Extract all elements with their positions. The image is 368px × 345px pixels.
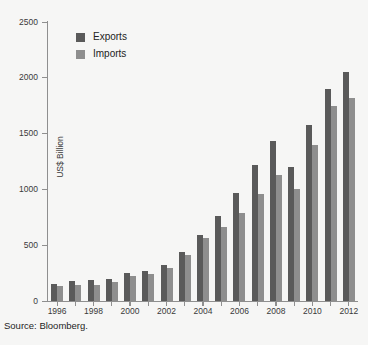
y-axis-tick (42, 245, 47, 246)
x-axis-tick (111, 301, 112, 306)
y-axis-tick-label: 0 (0, 297, 38, 306)
x-axis-tick (330, 301, 331, 306)
x-axis-tick (129, 301, 130, 306)
x-axis-tick-label: 2000 (110, 307, 150, 316)
x-axis-tick (148, 301, 149, 306)
y-axis-tick (42, 301, 47, 302)
x-axis-tick (239, 301, 240, 306)
bar-imports-2005 (221, 227, 227, 301)
x-axis-tick (57, 301, 58, 306)
y-axis-tick-label: 1500 (0, 129, 38, 138)
legend-label-imports: Imports (93, 49, 126, 59)
bar-imports-2002 (167, 268, 173, 301)
x-axis-tick-label: 1998 (74, 307, 114, 316)
bar-imports-2001 (148, 274, 154, 301)
y-axis-tick-label: 2500 (0, 18, 38, 27)
bar-imports-2011 (331, 106, 337, 301)
x-axis-tick-label: 2002 (147, 307, 187, 316)
y-axis-tick-label: 500 (0, 241, 38, 250)
x-axis-tick (257, 301, 258, 306)
y-axis-tick-label: 2000 (0, 73, 38, 82)
x-axis-tick-label: 2004 (183, 307, 223, 316)
bar-imports-1999 (112, 282, 118, 301)
x-axis-tick-label: 2006 (219, 307, 259, 316)
x-axis-tick-label: 2010 (292, 307, 332, 316)
x-axis-tick (275, 301, 276, 306)
legend-item-imports: Imports (76, 47, 127, 61)
x-axis-tick (221, 301, 222, 306)
bar-imports-2009 (294, 189, 300, 301)
bar-imports-2012 (349, 98, 355, 301)
bar-imports-1996 (57, 286, 63, 302)
bar-imports-2010 (312, 145, 318, 301)
chart-container: US$ Billion 05001000150020002500 1996199… (0, 0, 368, 345)
legend-swatch-imports-icon (76, 50, 85, 59)
bar-imports-2006 (239, 213, 245, 301)
y-axis-tick (42, 189, 47, 190)
x-axis-tick-label: 1996 (37, 307, 77, 316)
y-axis-tick (42, 22, 47, 23)
x-axis-tick (312, 301, 313, 306)
bar-imports-2004 (203, 238, 209, 301)
legend-swatch-exports-icon (76, 33, 85, 42)
y-axis-tick-label: 1000 (0, 185, 38, 194)
source-note: Source: Bloomberg. (4, 320, 88, 331)
x-axis-tick (75, 301, 76, 306)
bar-imports-1998 (94, 285, 100, 301)
bar-imports-2000 (130, 276, 136, 301)
legend-item-exports: Exports (76, 30, 127, 44)
bar-imports-1997 (75, 285, 81, 301)
x-axis-tick (166, 301, 167, 306)
bar-imports-2003 (185, 255, 191, 301)
legend-label-exports: Exports (93, 32, 127, 42)
bar-imports-2008 (276, 175, 282, 301)
x-axis-tick-label: 2008 (256, 307, 296, 316)
x-axis-tick-label: 2012 (329, 307, 368, 316)
chart-title (0, 0, 368, 12)
chart-legend: Exports Imports (76, 30, 127, 64)
y-axis-tick (42, 133, 47, 134)
bar-imports-2007 (258, 194, 264, 301)
y-axis-tick (42, 77, 47, 78)
x-axis-tick (184, 301, 185, 306)
x-axis-tick (348, 301, 349, 306)
x-axis-tick (93, 301, 94, 306)
x-axis-tick (202, 301, 203, 306)
x-axis-tick (294, 301, 295, 306)
